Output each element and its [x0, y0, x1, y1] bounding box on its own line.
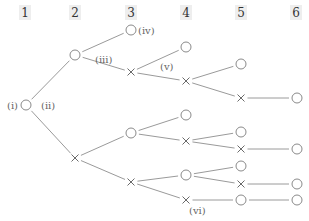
circle-node-icon — [181, 110, 191, 120]
column-header-4: 4 — [180, 5, 192, 20]
column-number: 4 — [182, 6, 190, 20]
column-number: 1 — [21, 6, 29, 20]
column-header-1: 1 — [19, 5, 31, 20]
circle-node-icon — [236, 127, 246, 137]
cross-node-icon — [238, 181, 245, 188]
column-header-3: 3 — [125, 5, 137, 20]
cross-node-icon — [183, 197, 190, 204]
cross-node-icon — [238, 146, 245, 153]
column-header-2: 2 — [69, 5, 81, 20]
cross-node-icon — [183, 138, 190, 145]
circle-node-icon — [292, 179, 302, 189]
edge-n4e-n5f — [194, 176, 235, 183]
branch-labels: (i)(ii)(iii)(iv)(v)(vi) — [7, 25, 206, 216]
column-headers: 123456 — [19, 5, 302, 20]
column-number: 5 — [237, 6, 245, 20]
branch-label: (vi) — [189, 205, 206, 216]
edge-n1-n2b — [31, 111, 70, 153]
circle-node-icon — [292, 93, 302, 103]
circle-node-icon — [21, 100, 31, 110]
edge-n4d-n5d — [192, 142, 234, 148]
branch-label: (v) — [160, 61, 174, 72]
edge-n3c-n4d — [139, 134, 180, 140]
circle-node-icon — [292, 144, 302, 154]
edge-n4d-n5c — [192, 133, 233, 140]
circle-node-icon — [181, 170, 191, 180]
circle-node-icon — [236, 59, 246, 69]
circle-node-icon — [126, 25, 136, 35]
tree-edges — [31, 33, 289, 200]
edge-n3c-n4c — [139, 117, 179, 130]
column-number: 6 — [292, 6, 300, 20]
cross-node-icon — [128, 179, 135, 186]
edge-n2a-n3a — [82, 33, 123, 51]
edge-n3d-n4f — [137, 184, 180, 198]
circle-node-icon — [236, 161, 246, 171]
column-header-5: 5 — [235, 5, 247, 20]
cross-node-icon — [72, 155, 79, 162]
edge-n4e-n5e — [194, 167, 233, 173]
circle-node-icon — [126, 128, 136, 138]
branch-label: (i) — [7, 100, 18, 111]
edge-n3d-n4e — [137, 176, 178, 181]
edge-n4b-n5b — [192, 83, 235, 96]
circle-node-icon — [181, 42, 191, 52]
edge-n4b-n5a — [192, 66, 233, 79]
branch-label: (iv) — [138, 25, 155, 36]
column-number: 3 — [127, 6, 135, 20]
cross-node-icon — [128, 69, 135, 76]
edge-n2b-n3d — [81, 161, 125, 180]
branch-label: (ii) — [41, 100, 55, 111]
edge-n3b-n4b — [137, 73, 179, 80]
tree-diagram: 123456 (i)(ii)(iii)(iv)(v)(vi) — [0, 0, 309, 221]
branch-label: (iii) — [95, 54, 112, 65]
column-header-6: 6 — [290, 5, 302, 20]
edge-n2b-n3c — [81, 136, 124, 155]
circle-node-icon — [236, 195, 246, 205]
column-number: 2 — [71, 6, 79, 20]
edge-n1-n2a — [32, 61, 70, 100]
circle-node-icon — [292, 195, 302, 205]
circle-node-icon — [70, 50, 80, 60]
cross-node-icon — [183, 78, 190, 85]
cross-node-icon — [238, 95, 245, 102]
